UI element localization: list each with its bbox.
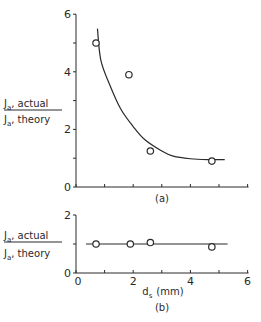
panel-a-y-axis-label: Ja, actual Ja, theory [3,98,62,128]
data-point-marker [93,40,99,46]
panel-b-data-points [93,239,215,250]
data-point-marker [209,244,215,250]
x-tick-label: 2 [130,275,137,288]
y-tick-label: 4 [64,66,71,79]
x-tick-label: 4 [187,275,194,288]
panel-a-y-tick-labels: 0246 [64,8,71,194]
figure: 0246 Ja, actual Ja, theory (a) 02 0246 J… [0,0,261,322]
panel-b: 02 0246 Ja, actual Ja, theory ds(mm) (b) [3,209,251,313]
x-tick-label: 6 [244,275,251,288]
panel-b-caption: (b) [155,302,169,313]
panel-b-y-tick-labels: 02 [64,209,71,280]
y-tick-label: 6 [64,8,71,21]
y-label-denominator: Ja, theory [3,248,50,262]
y-tick-label: 2 [64,123,71,136]
data-point-marker [147,148,153,154]
panel-a: 0246 Ja, actual Ja, theory (a) [3,8,249,204]
x-tick-label: 0 [75,275,82,288]
y-tick-label: 0 [64,181,71,194]
data-point-marker [127,241,133,247]
panel-a-caption: (a) [155,193,169,204]
data-point-marker [93,241,99,247]
panel-a-fit-curve [97,29,224,160]
y-tick-label: 0 [64,267,71,280]
panel-a-axes [73,14,249,187]
data-point-marker [126,71,132,77]
y-tick-label: 2 [64,209,71,222]
data-point-marker [209,158,215,164]
y-label-denominator: Ja, theory [3,114,50,128]
panel-b-x-axis-label: ds(mm) [142,286,183,300]
panel-b-y-axis-label: Ja, actual Ja, theory [3,230,62,262]
data-point-marker [147,239,153,245]
